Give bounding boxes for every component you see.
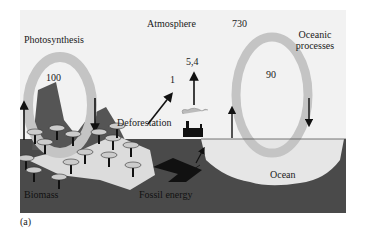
figure-caption: (a) <box>20 216 31 227</box>
fossil-energy-label: Fossil energy <box>139 189 192 200</box>
oceanic-value: 90 <box>266 69 276 80</box>
carbon-cycle-diagram: Atmosphere 730 Photosynthesis 100 Oceani… <box>20 10 346 213</box>
biomass-label: Biomass <box>24 189 58 200</box>
oceanic-processes-label: Oceanic processes <box>285 29 345 51</box>
deforestation-label: Deforestation <box>117 117 171 128</box>
photosynthesis-label: Photosynthesis <box>24 34 84 45</box>
photosynthesis-value: 100 <box>46 72 61 83</box>
deforestation-value: 1 <box>170 74 175 85</box>
ocean-label: Ocean <box>270 169 296 180</box>
atmosphere-label: Atmosphere <box>147 18 196 29</box>
fossil-emission-value: 5,4 <box>186 56 199 67</box>
atmosphere-value: 730 <box>232 18 247 29</box>
